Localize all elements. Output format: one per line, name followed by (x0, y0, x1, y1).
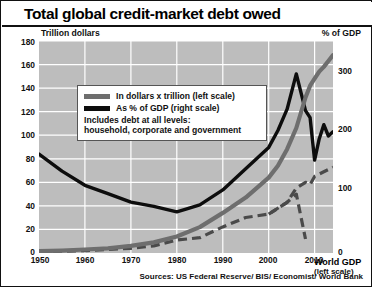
xtick-2000: 2000 (248, 255, 288, 265)
sources-line: Sources: US Federal Reserve/ BIS/ Econom… (140, 272, 363, 281)
plot-area: In dollars x trillion (left scale) As % … (39, 41, 333, 253)
series-world-gdp (39, 194, 306, 252)
ytick-left-140: 140 (3, 83, 35, 93)
ytick-right-100: 100 (338, 183, 372, 193)
legend-item-debt: In dollars x trillion (left scale) (84, 91, 260, 101)
chart-figure: Total global credit-market debt owed Tri… (0, 0, 372, 287)
left-axis-label: Trillion dollars (41, 28, 100, 38)
ytick-left-60: 60 (3, 177, 35, 187)
annotation-title: World GDP (314, 257, 361, 267)
xtick-1950: 1950 (20, 255, 60, 265)
legend-item-pct-gdp: As % of GDP (right scale) (84, 103, 260, 113)
legend-swatch-gray-icon (84, 94, 110, 99)
legend-note-line2: household, corporate and government (84, 126, 260, 136)
legend-label-pct-gdp: As % of GDP (right scale) (116, 103, 219, 113)
xtick-1990: 1990 (203, 255, 243, 265)
ytick-left-180: 180 (3, 37, 35, 47)
chart-svg (39, 41, 333, 253)
ytick-left-120: 120 (3, 107, 35, 117)
xtick-1970: 1970 (111, 255, 151, 265)
ytick-left-160: 160 (3, 60, 35, 70)
legend-note: Includes debt at all levels: household, … (84, 116, 260, 136)
ytick-right-200: 200 (338, 124, 372, 134)
ytick-left-100: 100 (3, 130, 35, 140)
legend: In dollars x trillion (left scale) As % … (77, 85, 267, 141)
series-world-gdp-tail (269, 167, 333, 214)
gridlines-vertical (85, 41, 315, 253)
title-band: Total global credit-market debt owed (2, 2, 372, 27)
ytick-left-20: 20 (3, 224, 35, 234)
legend-label-debt: In dollars x trillion (left scale) (116, 91, 235, 101)
legend-swatch-black-icon (84, 106, 110, 111)
ytick-left-80: 80 (3, 154, 35, 164)
xtick-1960: 1960 (65, 255, 105, 265)
right-axis-label: % of GDP (322, 28, 361, 38)
ytick-right-300: 300 (338, 66, 372, 76)
ytick-left-40: 40 (3, 201, 35, 211)
xtick-1980: 1980 (157, 255, 197, 265)
page-title: Total global credit-market debt owed (24, 5, 281, 23)
ytick-right-0: 0 (338, 247, 372, 257)
